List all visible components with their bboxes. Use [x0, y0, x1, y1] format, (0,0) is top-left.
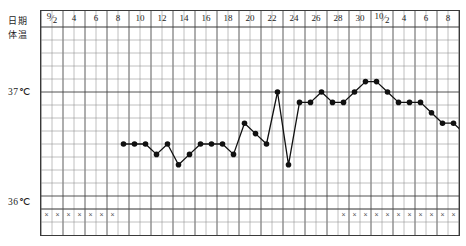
y-axis-tick-36: 36℃	[8, 196, 30, 207]
row-label-temperature: 体温	[8, 28, 27, 41]
y-axis-tick-37: 37℃	[8, 86, 30, 97]
row-label-date: 日期	[8, 14, 27, 27]
temperature-chart-page: 日期 体温 37℃ 36℃ 9⁄246810121416182022242628…	[0, 0, 466, 246]
chart-plot-area	[41, 11, 459, 235]
chart-grid: 9⁄2468101214161820222426283010⁄2468×××××…	[40, 10, 460, 236]
